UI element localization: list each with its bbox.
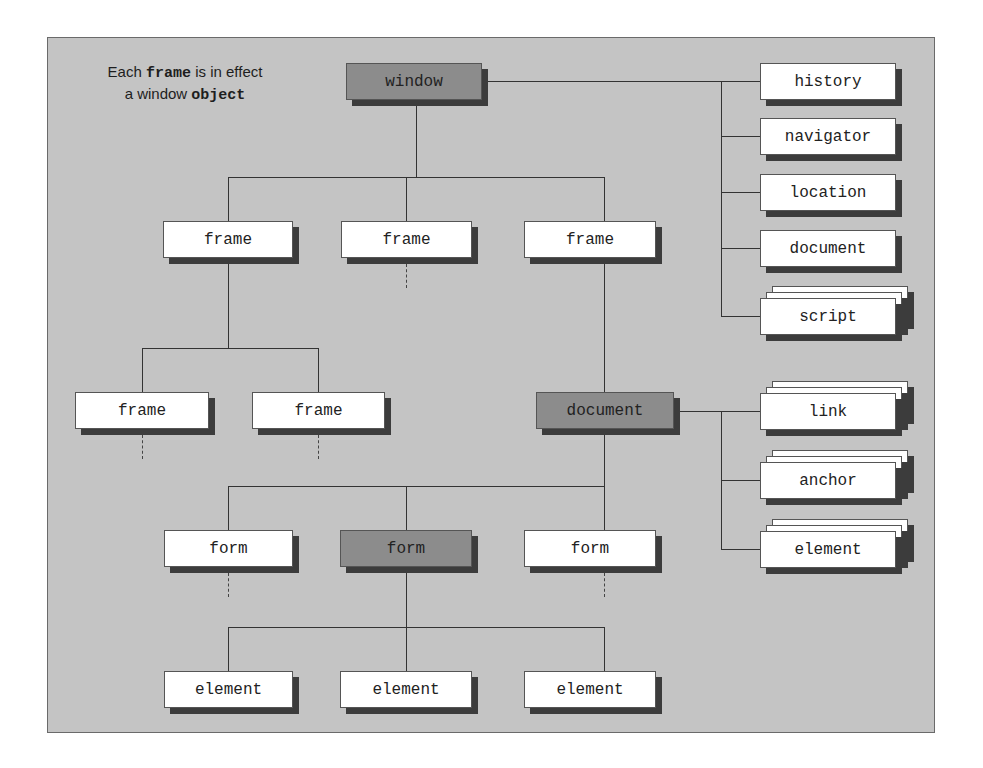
node-script: script <box>760 298 896 335</box>
connector <box>482 81 760 82</box>
continuation-dash <box>142 435 143 459</box>
node-frame: frame <box>341 221 472 258</box>
caption-code-frame: frame <box>146 65 191 82</box>
caption-text: a window <box>125 85 192 102</box>
connector <box>228 627 604 628</box>
continuation-dash <box>406 264 407 288</box>
connector <box>318 348 319 392</box>
connector <box>721 248 760 249</box>
node-frame: frame <box>163 221 293 258</box>
connector <box>721 480 760 481</box>
node-element: element <box>164 671 293 708</box>
node-link: link <box>760 393 896 430</box>
connector <box>721 81 722 317</box>
connector <box>406 567 407 627</box>
connector <box>228 177 604 178</box>
node-history: history <box>760 63 896 100</box>
continuation-dash <box>318 435 319 459</box>
node-frame: frame <box>252 392 385 429</box>
connector <box>721 136 760 137</box>
connector <box>604 430 605 530</box>
node-form: form <box>340 530 472 567</box>
connector <box>228 627 229 671</box>
connector <box>406 627 407 671</box>
connector <box>721 316 760 317</box>
continuation-dash <box>604 573 605 597</box>
connector <box>416 100 417 177</box>
node-frame: frame <box>75 392 209 429</box>
node-navigator: navigator <box>760 118 896 155</box>
node-anchor: anchor <box>760 462 896 499</box>
connector <box>406 486 407 530</box>
connector <box>228 177 229 221</box>
node-form: form <box>524 530 656 567</box>
continuation-dash <box>228 573 229 597</box>
connector <box>142 348 319 349</box>
connector <box>604 177 605 221</box>
caption-code-object: object <box>191 87 245 104</box>
node-frame: frame <box>524 221 656 258</box>
node-window: window <box>346 63 482 100</box>
node-document: document <box>536 392 674 429</box>
connector <box>721 549 760 550</box>
connector <box>406 177 407 221</box>
connector <box>604 627 605 671</box>
node-element: element <box>340 671 472 708</box>
connector <box>228 486 604 487</box>
node-form: form <box>164 530 293 567</box>
node-location: location <box>760 174 896 211</box>
node-element: element <box>524 671 656 708</box>
caption: Each frame is in effect a window object <box>75 62 295 106</box>
connector <box>228 258 229 348</box>
connector <box>674 411 760 412</box>
connector <box>604 258 605 392</box>
connector <box>721 192 760 193</box>
caption-text: is in effect <box>191 63 262 80</box>
caption-text: Each <box>108 63 146 80</box>
node-element: element <box>760 531 896 568</box>
connector <box>228 486 229 530</box>
node-document: document <box>760 230 896 267</box>
connector <box>142 348 143 392</box>
